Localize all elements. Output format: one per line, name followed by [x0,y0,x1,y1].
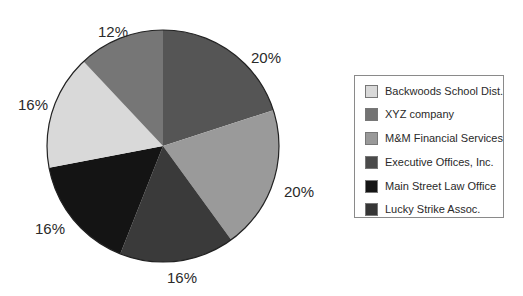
legend-item-backwoods: Backwoods School Dist. [365,83,503,99]
legend-item-executive: Executive Offices, Inc. [365,154,494,170]
legend-item-xyz: XYZ company [365,106,454,122]
legend-label: M&M Financial Services [385,132,503,144]
legend-label: Main Street Law Office [385,180,496,192]
legend-swatch [365,85,378,98]
legend-swatch [365,203,378,216]
legend-item-main-street: Main Street Law Office [365,178,496,194]
slice-label-main-street: 16% [35,220,65,237]
legend-label: Lucky Strike Assoc. [385,203,480,215]
slice-label-mm: 20% [284,183,314,200]
legend-swatch [365,156,378,169]
slice-label-backwoods: 16% [18,96,48,113]
legend-item-mm: M&M Financial Services [365,130,503,146]
legend-item-lucky-strike: Lucky Strike Assoc. [365,201,480,217]
legend-label: XYZ company [385,108,454,120]
chart-legend: Backwoods School Dist. XYZ company M&M F… [354,75,504,218]
pie-chart [0,0,340,296]
slice-label-xyz: 12% [98,23,128,40]
slice-label-executive: 20% [251,49,281,66]
legend-label: Executive Offices, Inc. [385,156,494,168]
legend-swatch [365,180,378,193]
legend-swatch [365,132,378,145]
legend-label: Backwoods School Dist. [385,85,503,97]
slice-label-lucky: 16% [167,269,197,286]
legend-swatch [365,108,378,121]
